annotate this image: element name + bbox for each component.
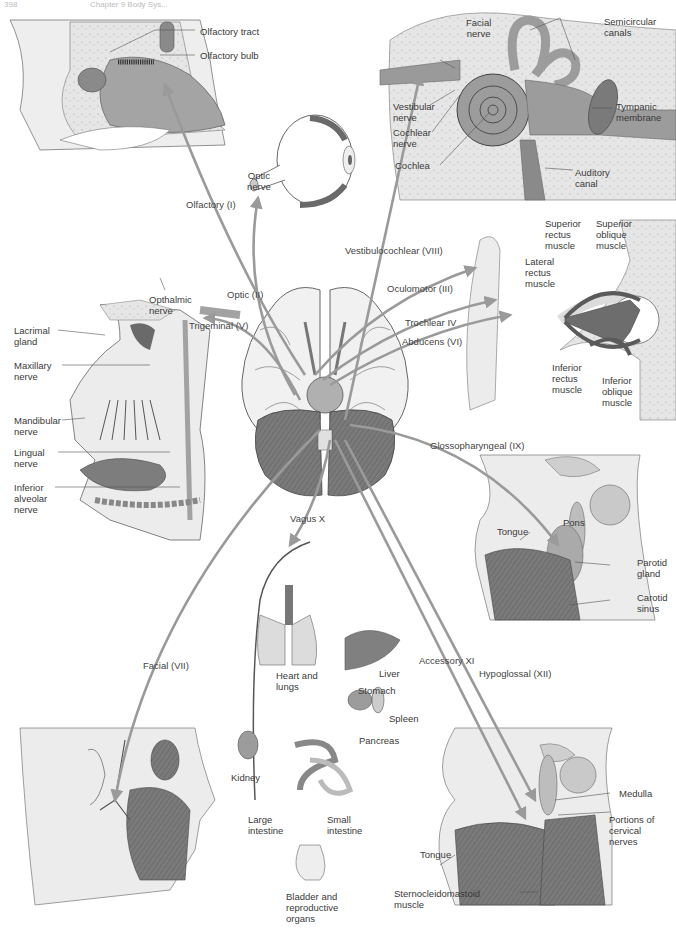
label-sternocleidomastoid: Sternocleidomastoid muscle [394, 888, 480, 910]
nerve-label-abducens: Abducens (VI) [402, 336, 462, 347]
label-opthalmic-nerve: Opthalmic nerve [149, 294, 192, 316]
label-liver: Liver [379, 668, 400, 679]
nerve-label-vestibulocochlear: Vestibulocochlear (VIII) [345, 245, 443, 256]
label-inferior-rectus: Inferior rectus muscle [552, 362, 582, 395]
label-tongue-neck: Tongue [420, 849, 451, 860]
label-cervical-nerves: Portions of cervical nerves [609, 814, 654, 847]
label-stomach: Stomach [358, 685, 396, 696]
label-semicircular-canals: Semicircular canals [604, 16, 656, 38]
label-lacrimal-gland: Lacrimal gland [14, 325, 50, 347]
label-superior-oblique: Superior oblique muscle [596, 218, 632, 251]
label-medulla: Medulla [619, 788, 652, 799]
label-lateral-rectus: Lateral rectus muscle [525, 256, 555, 289]
nerve-label-trochlear: Trochlear IV [405, 317, 456, 328]
nerve-label-facial: Facial (VII) [143, 660, 189, 671]
nerve-label-hypoglossal: Hypoglossal (XII) [479, 668, 551, 679]
label-parotid-gland: Parotid gland [637, 557, 667, 579]
nerve-label-trigeminal: Trigeminal (V) [189, 320, 248, 331]
label-optic-nerve: Optic nerve [247, 170, 271, 192]
label-olfactory-bulb: Olfactory bulb [200, 50, 259, 61]
label-lingual-nerve: Lingual nerve [14, 447, 45, 469]
label-auditory-canal: Auditory canal [575, 167, 610, 189]
nasal-cavity-panel [10, 20, 225, 150]
nerve-label-oculomotor: Oculomotor (III) [387, 283, 453, 294]
face-trigeminal-panel [70, 300, 240, 540]
nerve-label-accessory: Accessory XI [419, 655, 474, 666]
label-bladder-reproductive: Bladder and reproductive organs [286, 891, 338, 924]
throat-glossopharyngeal-panel [475, 455, 655, 620]
nerve-label-olfactory: Olfactory (I) [186, 199, 236, 210]
nerve-label-vagus: Vagus X [290, 513, 325, 524]
label-large-intestine: Large intestine [248, 814, 283, 836]
label-kidney: Kidney [231, 772, 260, 783]
label-pancreas: Pancreas [359, 735, 399, 746]
cranial-nerves-illustration [0, 0, 676, 930]
label-pons: Pons [563, 517, 585, 528]
label-cochlea: Cochlea [395, 160, 430, 171]
label-tympanic-membrane: Tympanic membrane [616, 101, 661, 123]
label-spleen: Spleen [389, 713, 419, 724]
nerve-label-optic: Optic (II) [227, 289, 263, 300]
label-cochlear-nerve: Cochlear nerve [393, 127, 431, 149]
face-facial-nerve-panel [20, 728, 215, 905]
label-superior-rectus: Superior rectus muscle [545, 218, 581, 251]
label-carotid-sinus: Carotid sinus [637, 592, 668, 614]
label-inferior-oblique: Inferior oblique muscle [602, 375, 633, 408]
label-heart-lungs: Heart and lungs [276, 670, 318, 692]
label-small-intestine: Small intestine [327, 814, 362, 836]
label-facial-nerve: Facial nerve [466, 17, 491, 39]
label-maxillary-nerve: Maxillary nerve [14, 360, 51, 382]
label-olfactory-tract: Olfactory tract [200, 26, 259, 37]
label-vestibular-nerve: Vestibular nerve [393, 101, 435, 123]
label-mandibular-nerve: Mandibular nerve [14, 415, 61, 437]
nerve-label-glossopharyngeal: Glossopharyngeal (IX) [430, 440, 525, 451]
label-inferior-alveolar-nerve: Inferior alveolar nerve [14, 482, 47, 515]
label-tongue-throat: Tongue [497, 526, 528, 537]
